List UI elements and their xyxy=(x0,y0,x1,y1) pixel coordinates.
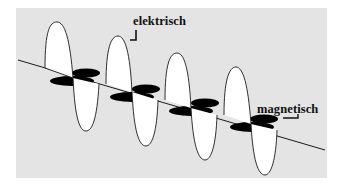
electric-loop-down xyxy=(191,108,217,160)
magnetic-field-label: magnetisch xyxy=(257,102,318,117)
electric-field xyxy=(45,22,277,175)
electric-field-label: elektrisch xyxy=(133,14,186,29)
electric-loop-up xyxy=(165,53,191,108)
electric-loop-up xyxy=(106,36,132,92)
electric-loop-down xyxy=(73,78,99,131)
electric-loop-up xyxy=(224,67,251,124)
elektrisch-leader xyxy=(130,30,136,40)
electric-loop-down xyxy=(251,124,277,175)
electric-loop-up xyxy=(45,22,73,78)
electric-loop-down xyxy=(132,92,158,146)
